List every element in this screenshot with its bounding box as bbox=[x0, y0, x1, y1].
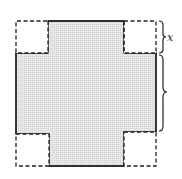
brace-x bbox=[159, 21, 166, 53]
corner-cutout-bottom-right bbox=[124, 132, 156, 166]
brace-middle bbox=[159, 55, 167, 131]
corner-cutout-top-right bbox=[124, 21, 156, 53]
corner-cutout-bottom-left bbox=[16, 134, 49, 166]
corner-cutout-top-left bbox=[16, 21, 48, 53]
box-net-diagram: x bbox=[0, 0, 182, 179]
label-x: x bbox=[167, 31, 174, 44]
